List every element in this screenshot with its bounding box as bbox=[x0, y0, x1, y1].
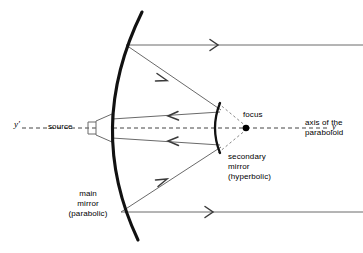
main-mirror-label-line2: mirror bbox=[48, 199, 128, 209]
main-mirror-label-line1: main bbox=[48, 189, 128, 199]
secondary-to-source-ray-lower bbox=[112, 138, 220, 145]
secondary-to-source-lower-arrowhead bbox=[168, 137, 179, 146]
reflected-ray-top-to-secondary bbox=[126, 45, 221, 110]
telescope-diagram: y′ source focus y axis of the paraboloid… bbox=[0, 0, 363, 253]
focus-point bbox=[243, 125, 250, 132]
secondary-to-source-ray-upper bbox=[112, 112, 220, 119]
secondary-to-source-upper-arrowhead bbox=[168, 112, 179, 121]
reflected-ray-top-arrowhead bbox=[156, 74, 168, 82]
virtual-focus-line-lower bbox=[218, 129, 247, 153]
source-label: source bbox=[48, 122, 73, 132]
reflected-ray-bottom-to-secondary bbox=[121, 147, 221, 212]
secondary-mirror-label-line2: mirror bbox=[228, 162, 249, 172]
y-prime-label: y′ bbox=[14, 120, 20, 130]
axis-of-paraboloid-label-line1: axis of the bbox=[305, 118, 343, 128]
secondary-mirror-label-line1: secondary bbox=[228, 152, 266, 162]
focus-label: focus bbox=[243, 110, 263, 120]
main-mirror-label-line3: (parabolic) bbox=[48, 209, 128, 219]
axis-of-paraboloid-label-line2: paraboloid bbox=[305, 128, 343, 138]
source-funnel bbox=[96, 114, 112, 142]
secondary-mirror-label-line3: (hyperbolic) bbox=[228, 172, 271, 182]
